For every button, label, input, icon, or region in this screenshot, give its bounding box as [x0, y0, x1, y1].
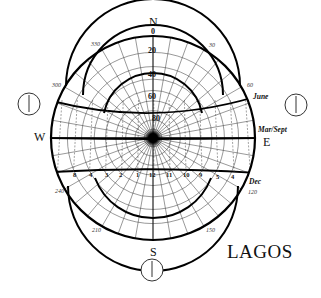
hour-label: 3: [105, 172, 108, 179]
sun-path-diagram: N S E W 0 20 40 60 80 330 30 300 60 240 …: [0, 0, 321, 298]
azimuth-label-330: 330: [91, 41, 100, 47]
hour-label: 1: [136, 172, 139, 179]
city-label: LAGOS: [227, 242, 293, 261]
east-label: E: [263, 136, 270, 148]
hour-label: 4: [89, 172, 92, 179]
noon-clock-icon: [141, 259, 163, 281]
altitude-label-0: 0: [151, 28, 155, 36]
december-path-label: Dec: [249, 178, 261, 186]
hour-label: 2: [119, 172, 122, 179]
equinox-path-label: Mar/Sept: [258, 126, 287, 134]
hour-label: 12: [149, 172, 156, 179]
azimuth-label-300: 300: [52, 82, 61, 88]
azimuth-label-240: 240: [55, 188, 64, 194]
hour-label: 11: [166, 172, 172, 179]
altitude-label-40: 40: [148, 71, 156, 79]
south-label: S: [150, 246, 157, 258]
azimuth-label-30: 30: [209, 42, 215, 48]
hour-label: 4: [231, 174, 234, 181]
hour-label: 9: [199, 172, 202, 179]
morning-clock-icon: [18, 93, 40, 115]
azimuth-label-60: 60: [247, 82, 253, 88]
azimuth-label-150: 150: [206, 227, 215, 233]
altitude-label-60: 60: [148, 93, 156, 101]
hour-label: 8: [73, 172, 76, 179]
june-path-label: June: [253, 93, 268, 101]
azimuth-label-120: 120: [248, 189, 257, 195]
altitude-label-80: 80: [152, 115, 160, 123]
west-label: W: [34, 131, 45, 143]
azimuth-label-210: 210: [92, 227, 101, 233]
hour-label: 10: [183, 172, 190, 179]
hour-label: 5: [216, 174, 219, 181]
afternoon-clock-icon: [285, 94, 307, 116]
altitude-label-20: 20: [148, 47, 156, 55]
